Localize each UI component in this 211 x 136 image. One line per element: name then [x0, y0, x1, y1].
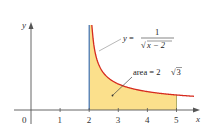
- x-axis-label: x: [195, 114, 200, 124]
- area-radicand: 3: [177, 67, 181, 77]
- function-annotation: y = 1 √ x − 2: [99, 27, 174, 51]
- x-tick-label-1: 1: [58, 115, 63, 125]
- function-pointer-line: [99, 39, 121, 51]
- x-tick-label-2: 2: [87, 115, 92, 125]
- x-axis-arrow: [193, 108, 200, 113]
- area-text: area = 2: [133, 67, 160, 77]
- x-tick-label-4: 4: [145, 115, 150, 125]
- y-axis-label: y: [21, 20, 26, 30]
- x-tick-label-5: 5: [174, 115, 179, 125]
- function-radical: √: [141, 40, 146, 50]
- function-denominator: x − 2: [146, 40, 166, 50]
- area-radical: √: [171, 67, 176, 77]
- function-lhs: y =: [122, 33, 134, 43]
- x-ticks: 12345: [58, 108, 179, 125]
- function-numerator: 1: [155, 27, 159, 37]
- chart: y x 0 12345 y = 1 √ x − 2 area = 2 √ 3: [0, 0, 211, 136]
- x-tick-label-3: 3: [116, 115, 121, 125]
- origin-label: 0: [22, 115, 27, 125]
- area-pointer-dot: [112, 95, 114, 97]
- y-axis-arrow: [29, 22, 34, 29]
